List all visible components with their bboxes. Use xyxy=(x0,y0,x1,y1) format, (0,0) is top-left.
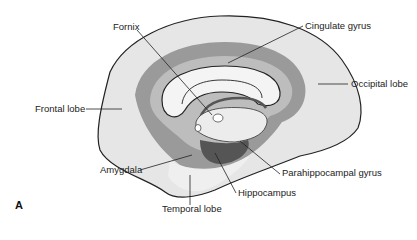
label-parahippocampal-gyrus: Parahippocampal gyrus xyxy=(282,167,382,178)
label-cingulate-gyrus: Cingulate gyrus xyxy=(305,20,371,31)
label-amygdala: Amygdala xyxy=(100,164,142,175)
label-occipital-lobe: Occipital lobe xyxy=(351,78,408,89)
label-frontal-lobe: Frontal lobe xyxy=(35,103,85,114)
label-fornix: Fornix xyxy=(113,21,139,32)
panel-label: A xyxy=(15,199,23,211)
label-temporal-lobe: Temporal lobe xyxy=(162,203,222,214)
label-hippocampus: Hippocampus xyxy=(238,187,296,198)
